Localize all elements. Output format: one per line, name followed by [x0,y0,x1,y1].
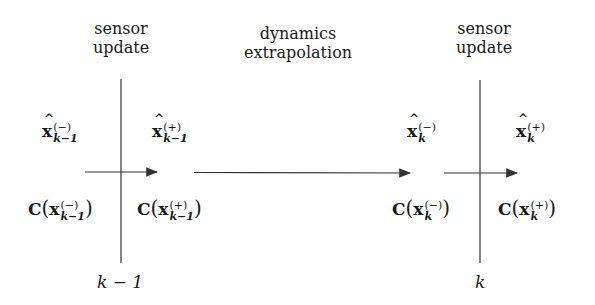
subscript: k−1 [53,133,78,144]
x-hat: x [42,121,52,141]
caption-line: dynamics [230,24,366,43]
caption-line: sensor [82,19,160,38]
x-hat: x [516,121,526,141]
superscript: (−) [53,122,78,133]
x-hat: x [152,121,162,141]
superscript: (+) [169,200,194,211]
caption-line: extrapolation [230,43,366,62]
x: x [158,199,168,219]
cov-fn: C [137,199,151,219]
caption-line: sensor [445,19,523,38]
covariance-prev-plus: C(x(+)k−1) [137,196,202,222]
time-index-k: k [475,272,485,292]
superscript: (+) [527,122,545,133]
covariance-k-plus: C(x(+)k) [498,196,556,222]
superscript: (+) [530,200,548,211]
caption-left-sensor-update: sensor update [82,19,160,57]
caption-right-sensor-update: sensor update [445,19,523,57]
subscript: k [527,133,545,144]
subscript: k−1 [169,211,194,222]
subscript: k−1 [60,211,85,222]
subscript: k [418,133,436,144]
state-estimate-k-minus: x(−)k [407,121,436,144]
superscript: (+) [163,122,188,133]
superscript: (−) [418,122,436,133]
x: x [413,199,423,219]
subscript: k [424,211,442,222]
cov-fn: C [392,199,406,219]
cov-fn: C [498,199,512,219]
dynamics-extrapolation-arrow [194,173,410,174]
caption-line: update [445,38,523,57]
x: x [49,199,59,219]
subscript: k−1 [163,133,188,144]
caption-dynamics-extrapolation: dynamics extrapolation [230,24,366,62]
superscript: (−) [424,200,442,211]
covariance-k-minus: C(x(−)k) [392,196,450,222]
state-estimate-prev-plus: x(+)k−1 [152,121,188,144]
covariance-prev-minus: C(x(−)k−1) [28,196,93,222]
subscript: k [530,211,548,222]
caption-line: update [82,38,160,57]
cov-fn: C [28,199,42,219]
state-estimate-k-plus: x(+)k [516,121,545,144]
state-estimate-prev-minus: x(−)k−1 [42,121,78,144]
time-index-k-minus-1: k − 1 [97,272,143,292]
x-hat: x [407,121,417,141]
superscript: (−) [60,200,85,211]
x: x [519,199,529,219]
